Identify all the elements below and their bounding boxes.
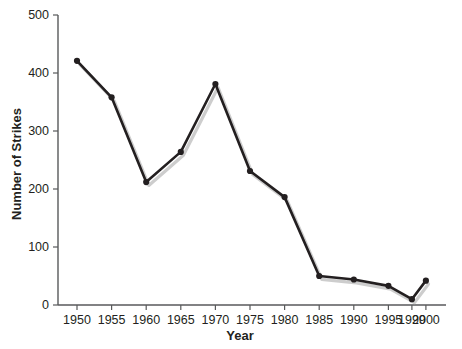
y-axis-tick-label: 100: [28, 241, 49, 254]
data-point-marker: [74, 58, 80, 64]
data-point-marker: [247, 168, 253, 174]
x-axis-title: Year: [0, 329, 462, 342]
y-axis-ticks: [53, 15, 58, 305]
data-line-shadow: [80, 64, 429, 302]
y-axis-tick-label: 300: [28, 125, 49, 138]
data-point-markers: [74, 58, 429, 303]
y-axis-tick-label: 400: [28, 67, 49, 80]
data-point-marker: [423, 278, 429, 284]
data-point-marker: [178, 149, 184, 155]
data-point-marker: [316, 273, 322, 279]
y-axis-tick-label: 500: [28, 9, 49, 22]
data-point-marker: [409, 296, 415, 302]
data-point-marker: [212, 81, 218, 87]
data-point-marker: [351, 276, 357, 282]
x-axis-ticks: [77, 305, 426, 310]
y-axis-title: Number of Strikes: [10, 108, 23, 220]
y-axis-tick-label: 200: [28, 183, 49, 196]
data-point-marker: [109, 94, 115, 100]
y-axis-tick-label: 0: [42, 299, 49, 312]
data-point-marker: [143, 179, 149, 185]
line-chart: 0100200300400500 19501955196019651970197…: [0, 0, 462, 349]
x-axis-tick-label: 2000: [406, 314, 446, 327]
data-line: [77, 61, 426, 299]
data-point-marker: [282, 194, 288, 200]
data-point-marker: [385, 283, 391, 289]
chart-plot-area: [0, 0, 462, 349]
